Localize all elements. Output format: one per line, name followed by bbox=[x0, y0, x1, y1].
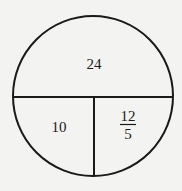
circle-diagram: 24 10 12 5 bbox=[0, 0, 182, 191]
region-bottom-right-fraction: 12 5 bbox=[120, 108, 136, 142]
fraction-denominator: 5 bbox=[124, 126, 132, 142]
region-bottom-left-label: 10 bbox=[52, 119, 67, 135]
region-top-label: 24 bbox=[87, 56, 103, 72]
fraction-numerator: 12 bbox=[121, 108, 136, 124]
